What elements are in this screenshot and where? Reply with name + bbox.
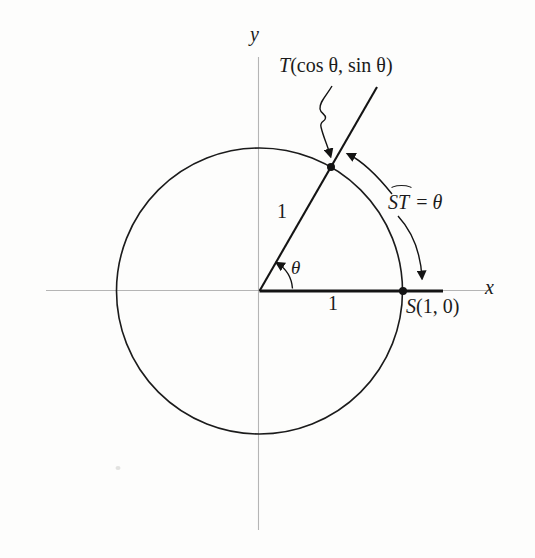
arc-equation-value: θ — [432, 191, 442, 213]
point-S-label: S(1, 0) — [406, 295, 459, 317]
base-length-label: 1 — [328, 292, 338, 314]
point-T-name: T — [279, 54, 290, 76]
angle-theta-label: θ — [291, 258, 300, 279]
point-S-dot — [399, 287, 407, 295]
t-label-leader-arrow — [320, 86, 332, 156]
figure-geometry — [0, 0, 535, 558]
y-axis-label: y — [250, 23, 259, 45]
arc-name-wrap: ST — [388, 186, 409, 213]
x-axis-label: x — [485, 276, 494, 298]
unit-circle-figure: y x T(cos θ, sin θ) ST = θ S(1, 0) 1 1 θ — [0, 0, 535, 558]
arc-equation-equals: = — [416, 191, 427, 213]
point-T-dot — [327, 163, 335, 171]
arc-equation-label: ST = θ — [388, 186, 442, 213]
point-S-name: S — [406, 295, 416, 317]
point-T-coords: (cos θ, sin θ) — [290, 54, 392, 76]
scan-speck — [116, 466, 121, 470]
point-S-coords: (1, 0) — [416, 295, 459, 317]
overarc-icon — [389, 185, 414, 195]
arc-upper-arrow — [348, 154, 392, 194]
point-T-label: T(cos θ, sin θ) — [279, 54, 393, 76]
radius-length-label: 1 — [277, 200, 287, 222]
arc-lower-arrow — [398, 216, 422, 278]
